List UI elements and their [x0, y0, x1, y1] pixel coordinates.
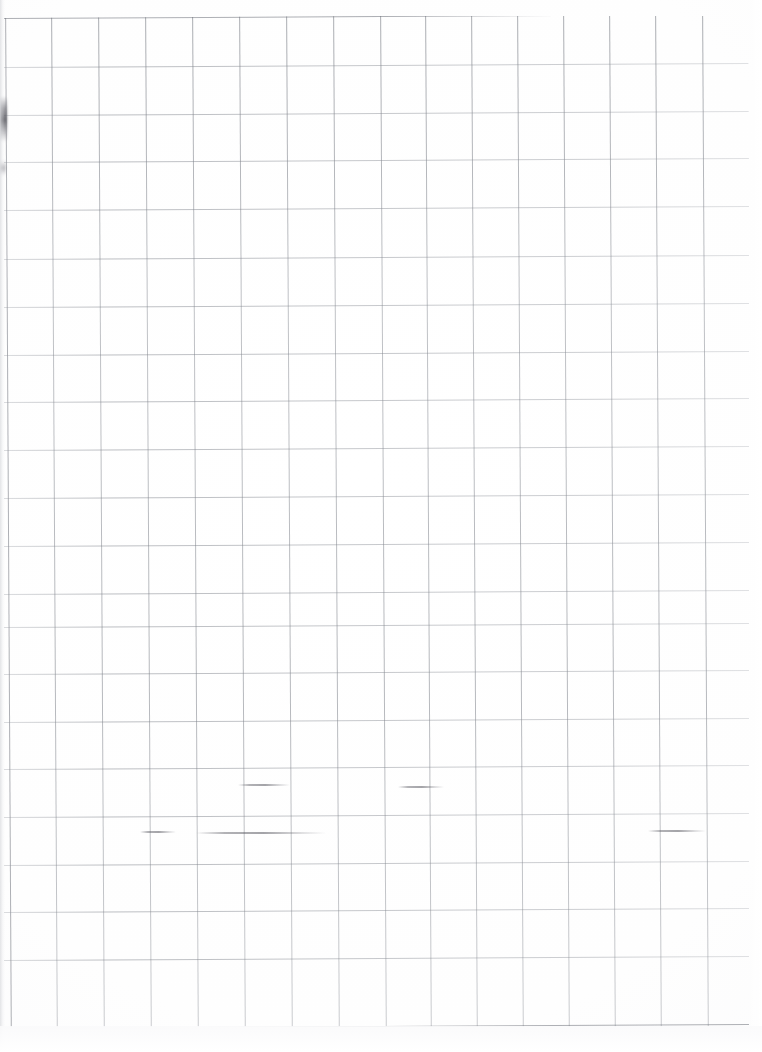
- grid-vertical-line: [517, 16, 524, 1027]
- grid-vertical-line: [563, 16, 570, 1027]
- grid-horizontal-line: [4, 111, 749, 116]
- grid-vertical-line: [380, 16, 387, 1027]
- grid-vertical-line: [98, 18, 105, 1027]
- scanner-left-shadow: [0, 0, 5, 1052]
- grid-vertical-line: [471, 16, 478, 1027]
- scanned-graph-paper-page: Blank quadrille graph paper scan: [0, 0, 762, 1052]
- grid-vertical-line: [425, 16, 432, 1027]
- grid-horizontal-line: [4, 908, 749, 913]
- grid-horizontal-line: [4, 303, 749, 308]
- grid-horizontal-line: [4, 765, 749, 770]
- grid-horizontal-line: [4, 255, 749, 260]
- grid-line-layer: [4, 16, 749, 1027]
- grid-horizontal-line: [4, 813, 749, 818]
- grid-horizontal-line: [4, 206, 749, 211]
- grid-vertical-line: [333, 16, 340, 1027]
- grid-horizontal-line: [4, 623, 749, 628]
- grid-horizontal-line: [4, 542, 749, 547]
- grid-horizontal-line: [4, 398, 749, 403]
- pencil-stroke-upper-left: [238, 784, 290, 786]
- grid-rotation-wrapper: [4, 16, 749, 1027]
- grid-vertical-line: [655, 16, 662, 1026]
- grid-vertical-line: [609, 16, 616, 1027]
- grid-horizontal-line: [4, 670, 749, 675]
- grid-vertical-line: [192, 17, 199, 1027]
- grid-horizontal-line: [4, 63, 748, 68]
- grid-vertical-line: [145, 17, 152, 1027]
- pencil-stroke-lower-right: [648, 830, 706, 832]
- scanner-bottom-fade: [0, 1026, 762, 1052]
- grid-horizontal-line: [4, 718, 749, 723]
- grid-horizontal-line: [4, 16, 748, 19]
- pencil-stroke-upper-right: [398, 786, 444, 788]
- grid-vertical-line: [239, 17, 246, 1027]
- grid-horizontal-line: [4, 446, 749, 451]
- grid-horizontal-line: [4, 494, 749, 499]
- pencil-stroke-lower-left: [140, 831, 176, 833]
- grid-vertical-line: [5, 18, 12, 1027]
- grid-horizontal-line: [4, 861, 749, 866]
- grid-horizontal-line: [4, 590, 749, 595]
- grid-horizontal-line: [4, 956, 749, 961]
- pencil-stroke-lower-mid: [196, 832, 326, 834]
- scanner-right-fade: [748, 0, 762, 1052]
- grid-vertical-line: [702, 16, 709, 1026]
- grid-horizontal-line: [4, 158, 749, 163]
- grid-vertical-line: [51, 18, 58, 1027]
- grid-horizontal-line: [4, 351, 749, 356]
- grid-vertical-line: [286, 17, 293, 1027]
- grid-area: [4, 16, 749, 1027]
